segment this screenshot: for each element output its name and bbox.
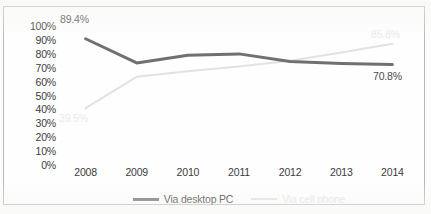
y-axis-tick: 40% bbox=[12, 104, 56, 115]
x-axis-tick: 2010 bbox=[162, 167, 214, 178]
x-axis-tick: 2011 bbox=[213, 167, 265, 178]
y-axis-tick: 10% bbox=[12, 146, 56, 157]
plot-area: 89.4% 39.5% 85.8% 70.8% bbox=[60, 24, 418, 163]
data-label-desktop-start: 89.4% bbox=[60, 14, 89, 25]
y-axis-tick: 100% bbox=[12, 21, 56, 32]
y-axis-tick: 30% bbox=[12, 118, 56, 129]
x-axis-tick: 2013 bbox=[315, 167, 367, 178]
x-axis-tick: 2009 bbox=[111, 167, 163, 178]
y-axis-tick: 20% bbox=[12, 132, 56, 143]
y-axis-tick: 50% bbox=[12, 91, 56, 102]
x-axis-tick: 2014 bbox=[366, 167, 418, 178]
y-axis: 100% 90% 80% 70% 60% 50% 40% 30% 20% 10%… bbox=[8, 7, 56, 214]
data-label-cell-end: 85.8% bbox=[371, 29, 400, 40]
legend-item-via-desktop-pc[interactable]: Via desktop PC bbox=[133, 193, 233, 205]
legend-item-label: Via desktop PC bbox=[164, 193, 233, 205]
y-axis-tick: 90% bbox=[12, 35, 56, 46]
y-axis-tick: 60% bbox=[12, 77, 56, 88]
y-axis-tick: 0% bbox=[12, 160, 56, 171]
legend-swatch-icon bbox=[251, 198, 277, 200]
legend-item-label: Via cell phone bbox=[282, 193, 345, 205]
x-axis: 2008 2009 2010 2011 2012 2013 2014 bbox=[60, 167, 418, 183]
legend-item-via-cell-phone[interactable]: Via cell phone bbox=[251, 193, 345, 205]
x-axis-tick: 2012 bbox=[264, 167, 316, 178]
data-label-cell-start: 39.5% bbox=[59, 113, 88, 124]
x-axis-tick: 2008 bbox=[60, 167, 112, 178]
data-label-desktop-end: 70.8% bbox=[373, 71, 402, 82]
chart-screenshot: 100% 90% 80% 70% 60% 50% 40% 30% 20% 10%… bbox=[0, 0, 431, 214]
y-axis-tick: 70% bbox=[12, 63, 56, 74]
chart-legend: Via desktop PC Via cell phone bbox=[60, 191, 418, 207]
y-axis-tick: 80% bbox=[12, 49, 56, 60]
plot-svg bbox=[60, 24, 418, 163]
legend-swatch-icon bbox=[133, 198, 159, 201]
chart-frame: 100% 90% 80% 70% 60% 50% 40% 30% 20% 10%… bbox=[3, 6, 425, 205]
